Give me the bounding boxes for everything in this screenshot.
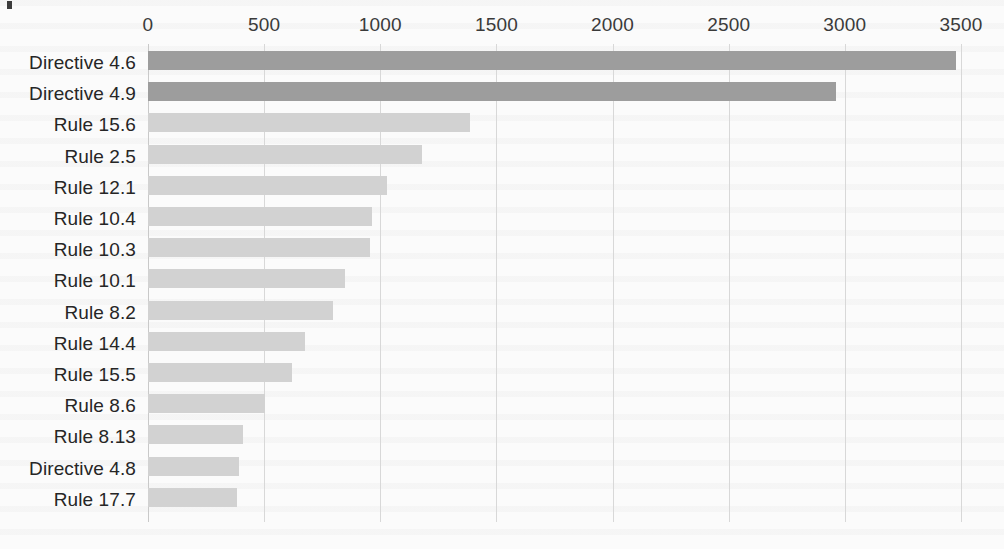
bar-rule-10-1 — [148, 269, 345, 288]
category-label-rule-12-1: Rule 12.1 — [54, 177, 136, 199]
bar-rule-8-13 — [148, 425, 243, 444]
category-label-directive-4-9: Directive 4.9 — [29, 83, 136, 105]
bar-rule-15-5 — [148, 363, 292, 382]
chart-screenshot: 0500100015002000250030003500Directive 4.… — [0, 0, 1004, 549]
bar-rule-8-2 — [148, 301, 333, 320]
bar-rule-2-5 — [148, 145, 422, 164]
x-tick-label-2500: 2500 — [707, 14, 750, 36]
gridline-2500 — [729, 44, 730, 522]
category-label-rule-2-5: Rule 2.5 — [64, 146, 136, 168]
gridline-1500 — [496, 44, 497, 522]
bar-rule-12-1 — [148, 176, 387, 195]
category-label-rule-8-2: Rule 8.2 — [64, 302, 136, 324]
bar-directive-4-6 — [148, 51, 956, 70]
category-label-rule-8-13: Rule 8.13 — [54, 426, 136, 448]
gridline-3000 — [845, 44, 846, 522]
bar-rule-8-6 — [148, 394, 265, 413]
bar-rule-10-3 — [148, 238, 370, 257]
category-label-rule-8-6: Rule 8.6 — [64, 395, 136, 417]
x-tick-label-0: 0 — [143, 14, 154, 36]
gridline-2000 — [613, 44, 614, 522]
horizontal-bar-chart: 0500100015002000250030003500Directive 4.… — [0, 0, 1004, 549]
x-tick-label-3500: 3500 — [939, 14, 982, 36]
x-tick-label-1000: 1000 — [359, 14, 402, 36]
category-label-rule-15-6: Rule 15.6 — [54, 114, 136, 136]
category-label-rule-10-3: Rule 10.3 — [54, 239, 136, 261]
category-label-rule-10-1: Rule 10.1 — [54, 270, 136, 292]
x-tick-label-500: 500 — [248, 14, 280, 36]
bar-rule-15-6 — [148, 113, 470, 132]
bar-rule-17-7 — [148, 488, 237, 507]
gridline-3500 — [961, 44, 962, 522]
x-tick-label-3000: 3000 — [823, 14, 866, 36]
cropped-glyph-mark — [7, 1, 12, 9]
category-label-rule-14-4: Rule 14.4 — [54, 333, 136, 355]
bar-rule-10-4 — [148, 207, 372, 226]
x-tick-label-2000: 2000 — [591, 14, 634, 36]
category-label-directive-4-8: Directive 4.8 — [29, 458, 136, 480]
category-label-rule-17-7: Rule 17.7 — [54, 489, 136, 511]
category-label-rule-15-5: Rule 15.5 — [54, 364, 136, 386]
bar-rule-14-4 — [148, 332, 305, 351]
category-label-rule-10-4: Rule 10.4 — [54, 208, 136, 230]
bar-directive-4-8 — [148, 457, 239, 476]
bar-directive-4-9 — [148, 82, 836, 101]
x-tick-label-1500: 1500 — [475, 14, 518, 36]
category-label-directive-4-6: Directive 4.6 — [29, 52, 136, 74]
plot-area: 0500100015002000250030003500Directive 4.… — [148, 44, 961, 522]
